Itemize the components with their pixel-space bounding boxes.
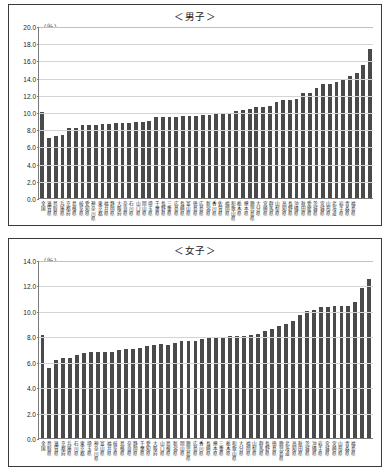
x-axis-tick-label: 大分県 bbox=[254, 201, 259, 221]
x-axis-tick-label: 茨城県 bbox=[312, 201, 317, 221]
x-axis-tick-label: 福島県 bbox=[350, 201, 355, 221]
y-axis-tick-mark bbox=[37, 79, 39, 80]
bar-slot bbox=[171, 261, 178, 438]
bar bbox=[147, 121, 151, 198]
bar bbox=[181, 116, 185, 198]
x-axis-tick-label: 岩手県 bbox=[317, 441, 322, 461]
x-axis-tick-label: 岡山県 bbox=[178, 441, 183, 461]
x-axis-tick-label: 島根県 bbox=[118, 441, 123, 461]
y-axis-tick-mark bbox=[37, 388, 39, 389]
x-axis-tick-label: 熊本県 bbox=[211, 441, 216, 461]
bar bbox=[254, 107, 258, 198]
x-axis-label-slot: 山形県 bbox=[335, 441, 342, 461]
y-axis-tick-label: 8.0 bbox=[27, 127, 36, 134]
bar-slot bbox=[192, 261, 199, 438]
gridline bbox=[39, 27, 373, 28]
bar-slot bbox=[296, 261, 303, 438]
x-axis-tick-label: 長崎県 bbox=[178, 201, 183, 221]
bar bbox=[353, 302, 357, 438]
x-axis-label-slot: 山梨県 bbox=[250, 441, 257, 461]
bar-slot bbox=[213, 261, 220, 438]
gridline bbox=[39, 182, 373, 183]
x-axis-tick-label: 千葉県 bbox=[153, 201, 158, 221]
bar-slot bbox=[46, 261, 53, 438]
x-axis-label-slot: 岩手県 bbox=[316, 441, 323, 461]
bar bbox=[141, 122, 145, 198]
x-axis-tick-label: 広島県 bbox=[172, 201, 177, 221]
x-axis-tick-label: 愛知県 bbox=[83, 201, 88, 221]
x-axis-tick-label: 北海道 bbox=[331, 201, 336, 221]
bar-slot bbox=[39, 261, 46, 438]
bar-slot bbox=[60, 261, 67, 438]
bar bbox=[74, 128, 78, 198]
x-axis-label-slot: 島根県 bbox=[164, 441, 171, 461]
x-axis-tick-label: 広島県 bbox=[197, 201, 202, 221]
x-axis-label-slot: 栃木県 bbox=[223, 441, 230, 461]
x-axis-label-slot: 沖縄県 bbox=[309, 441, 316, 461]
y-axis-tick-mark bbox=[37, 165, 39, 166]
bar bbox=[368, 49, 372, 198]
bar bbox=[288, 100, 292, 198]
x-axis-tick-label: 京都府 bbox=[59, 441, 64, 461]
bar-slot bbox=[317, 261, 324, 438]
bar bbox=[228, 114, 232, 198]
bar-slot bbox=[122, 261, 129, 438]
bar bbox=[166, 345, 170, 438]
x-axis-label-slot: 大分県 bbox=[236, 441, 243, 461]
x-axis-label-slot: 京都府 bbox=[58, 441, 65, 461]
bar bbox=[277, 326, 281, 438]
x-axis-labels-boys: 全国滋賀県鳥取県兵庫県京都府島根県岐阜県愛知県神奈川県東京都福井県静岡県大阪府奈… bbox=[38, 201, 355, 221]
y-axis-tick-mark bbox=[37, 182, 39, 183]
bar-slot bbox=[352, 261, 359, 438]
bar bbox=[54, 136, 58, 198]
x-axis-tick-label: 北海道 bbox=[283, 441, 288, 461]
gridline bbox=[39, 312, 373, 313]
bar bbox=[94, 125, 98, 198]
bar-slot bbox=[289, 261, 296, 438]
bar bbox=[96, 352, 100, 438]
x-axis-tick-label: 香川県 bbox=[198, 441, 203, 461]
x-axis-tick-label: 山口県 bbox=[158, 441, 163, 461]
bar bbox=[110, 352, 114, 438]
y-axis-tick-label: 14.0 bbox=[23, 258, 36, 265]
x-axis-tick-label: 長野県 bbox=[286, 201, 291, 221]
x-axis-tick-label: 大分県 bbox=[237, 441, 242, 461]
x-axis-tick-label: 沖縄県 bbox=[310, 441, 315, 461]
x-axis-tick-label: 静岡県 bbox=[109, 201, 114, 221]
bar bbox=[361, 65, 365, 198]
x-axis-tick-label: 青森県 bbox=[343, 441, 348, 461]
y-axis-tick-label: 2.0 bbox=[27, 410, 36, 417]
y-axis-tick-label: 12.0 bbox=[23, 283, 36, 290]
bar-series-girls bbox=[39, 261, 373, 438]
bar-slot bbox=[275, 261, 282, 438]
bar bbox=[305, 311, 309, 438]
x-axis-label-slot: 島根県 bbox=[117, 441, 124, 461]
y-axis-tick-label: 0.0 bbox=[27, 196, 36, 203]
y-axis-tick-mark bbox=[37, 261, 39, 262]
x-axis-tick-label: 福島県 bbox=[350, 441, 355, 461]
x-axis-tick-label: 兵庫県 bbox=[58, 201, 63, 221]
x-axis-tick-label: 石川県 bbox=[72, 441, 77, 461]
x-axis-label-slot: 埼玉県 bbox=[84, 441, 91, 461]
x-axis-label-slot: 徳島県 bbox=[269, 441, 276, 461]
x-axis-label-slot: 熊本県 bbox=[210, 441, 217, 461]
bar bbox=[291, 321, 295, 438]
x-axis-label-slot: 滋賀県 bbox=[51, 441, 58, 461]
y-axis-tick-mark bbox=[37, 414, 39, 415]
bar bbox=[173, 343, 177, 438]
bar-slot bbox=[338, 261, 345, 438]
bar bbox=[87, 125, 91, 198]
x-axis-label-slot: 兵庫県 bbox=[64, 441, 71, 461]
bar bbox=[341, 79, 345, 198]
bar bbox=[138, 348, 142, 438]
bar bbox=[61, 135, 65, 198]
bar bbox=[159, 344, 163, 438]
bar bbox=[234, 111, 238, 198]
x-axis-label-slot: 奈良県 bbox=[124, 441, 131, 461]
x-axis-tick-label: 鹿児島県 bbox=[184, 441, 189, 461]
x-axis-tick-label: 秋田県 bbox=[299, 201, 304, 221]
y-axis-tick-label: 6.0 bbox=[27, 144, 36, 151]
x-axis-tick-label: 新潟県 bbox=[204, 201, 209, 221]
x-axis-tick-label: 山形県 bbox=[336, 441, 341, 461]
gridline bbox=[39, 130, 373, 131]
